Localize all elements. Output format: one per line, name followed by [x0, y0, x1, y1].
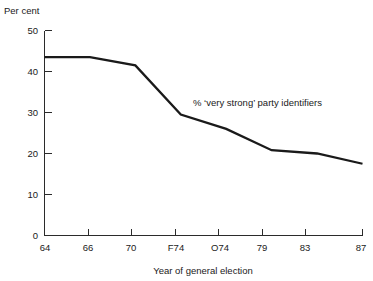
x-tick-label-79: 79: [257, 242, 268, 253]
chart-figure: Per cent 50 40 30 20 10 0: [0, 0, 373, 281]
y-tick-label-40: 40: [27, 66, 38, 77]
x-tick-label-87: 87: [356, 242, 367, 253]
y-tick-label-30: 30: [27, 107, 38, 118]
y-axis-caption: Per cent: [4, 5, 40, 16]
y-tick-label-50: 50: [27, 25, 38, 36]
x-tick-label-66: 66: [83, 242, 94, 253]
x-axis-title: Year of general election: [153, 265, 252, 276]
y-tick-label-0: 0: [33, 230, 38, 241]
series-annotation-label: % ‘very strong’ party identifiers: [193, 97, 322, 108]
x-tick-labels: 64 66 70 F74 O74 79 83 87: [40, 242, 367, 253]
x-tick-marks: [89, 229, 363, 236]
x-tick-label-70: 70: [126, 242, 137, 253]
y-tick-marks: [45, 31, 52, 195]
y-tick-labels: 50 40 30 20 10 0: [27, 25, 38, 241]
line-chart: Per cent 50 40 30 20 10 0: [0, 0, 373, 281]
x-tick-label-f74: F74: [168, 242, 184, 253]
x-tick-label-o74: O74: [211, 242, 229, 253]
x-tick-label-64: 64: [40, 242, 51, 253]
data-series-line: [45, 57, 363, 164]
x-tick-label-83: 83: [300, 242, 311, 253]
y-tick-label-10: 10: [27, 189, 38, 200]
axis-spines: [45, 31, 363, 236]
y-tick-label-20: 20: [27, 148, 38, 159]
